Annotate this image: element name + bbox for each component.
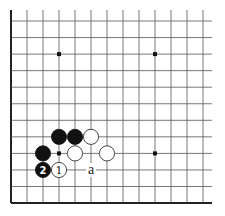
- black-stone: 2: [35, 162, 50, 177]
- white-stone: [99, 146, 114, 161]
- go-board-diagram: 21 a: [0, 0, 225, 216]
- board-labels: a: [86, 162, 96, 177]
- point-label: a: [88, 162, 95, 177]
- white-stone: 1: [51, 162, 66, 177]
- black-stone-icon: [67, 129, 82, 144]
- star-point-icon: [153, 52, 157, 56]
- star-point-icon: [57, 151, 61, 155]
- star-point-icon: [153, 151, 157, 155]
- black-stone-icon: [35, 146, 50, 161]
- black-stone: [67, 129, 82, 144]
- star-point-icon: [57, 52, 61, 56]
- black-stone: [35, 146, 50, 161]
- white-stone-icon: [99, 146, 114, 161]
- white-stone: [67, 146, 82, 161]
- move-number: 2: [40, 165, 47, 176]
- move-number: 1: [56, 164, 63, 177]
- white-stone: [83, 129, 98, 144]
- black-stone: [51, 129, 66, 144]
- white-stone-icon: [67, 146, 82, 161]
- black-stone-icon: [51, 129, 66, 144]
- white-stone-icon: [83, 129, 98, 144]
